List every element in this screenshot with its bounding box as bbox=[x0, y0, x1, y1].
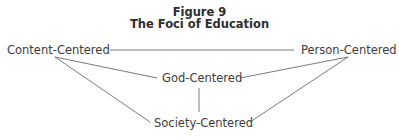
node-person-centered: Person-Centered bbox=[301, 43, 397, 57]
node-society-centered: Society-Centered bbox=[154, 116, 253, 130]
node-god-centered: God-Centered bbox=[162, 71, 242, 85]
node-content-centered: Content-Centered bbox=[7, 43, 110, 57]
